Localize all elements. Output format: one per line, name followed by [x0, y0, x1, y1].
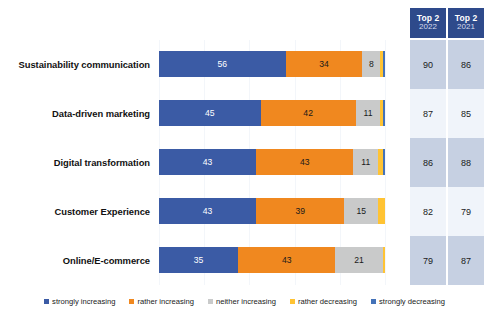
- legend-label: rather decreasing: [298, 297, 357, 306]
- chart-row: Sustainability communication563489086: [0, 40, 489, 89]
- top2-value-2022: 87: [410, 89, 446, 138]
- legend-item[interactable]: strongly increasing: [44, 297, 115, 306]
- top2-value-2022: 82: [410, 187, 446, 236]
- segment-rather-decreasing: [378, 198, 385, 224]
- segment-neither-increasing: 21: [335, 247, 382, 273]
- legend-swatch-icon: [44, 299, 49, 304]
- segment-value-label: 34: [319, 59, 329, 69]
- top2-value-2022: 86: [410, 138, 446, 187]
- segment-rather-decreasing: [383, 247, 385, 273]
- category-label: Sustainability communication: [0, 40, 150, 89]
- top2-header-year: 2021: [457, 23, 475, 31]
- category-label: Digital transformation: [0, 138, 150, 187]
- top2-value-2021: 88: [448, 138, 484, 187]
- segment-value-label: 56: [217, 59, 227, 69]
- top2-header-row: Top 22022Top 22021: [410, 8, 484, 38]
- legend-swatch-icon: [371, 299, 376, 304]
- category-label: Customer Experience: [0, 187, 150, 236]
- stacked-bar-chart: Top 22022Top 22021 Sustainability commun…: [0, 0, 489, 324]
- top2-value-2021: 87: [448, 236, 484, 285]
- segment-value-label: 15: [356, 206, 366, 216]
- segment-rather-increasing: 43: [256, 149, 353, 175]
- top2-value-2022: 90: [410, 40, 446, 89]
- segment-strongly-increasing: 43: [159, 198, 256, 224]
- plot-area: Sustainability communication563489086Dat…: [0, 40, 489, 285]
- stacked-bar: 433915: [159, 198, 385, 224]
- top2-value-cells: 7987: [410, 236, 484, 285]
- segment-strongly-decreasing: [383, 51, 385, 77]
- top2-value-cells: 8785: [410, 89, 484, 138]
- segment-strongly-increasing: 45: [159, 100, 261, 126]
- segment-value-label: 8: [369, 59, 374, 69]
- legend-swatch-icon: [290, 299, 295, 304]
- segment-rather-increasing: 43: [238, 247, 335, 273]
- segment-value-label: 43: [203, 206, 213, 216]
- segment-neither-increasing: 11: [356, 100, 381, 126]
- top2-value-2021: 79: [448, 187, 484, 236]
- top2-value-2021: 86: [448, 40, 484, 89]
- legend-item[interactable]: rather decreasing: [290, 297, 357, 306]
- segment-rather-increasing: 42: [261, 100, 356, 126]
- top2-value-cells: 8279: [410, 187, 484, 236]
- top2-value-cells: 9086: [410, 40, 484, 89]
- segment-strongly-decreasing: [383, 149, 385, 175]
- segment-strongly-increasing: 35: [159, 247, 238, 273]
- top2-header-cell-2022: Top 22022: [410, 8, 446, 38]
- top2-value-2022: 79: [410, 236, 446, 285]
- legend-swatch-icon: [129, 299, 134, 304]
- category-label: Data-driven marketing: [0, 89, 150, 138]
- legend-item[interactable]: neither increasing: [208, 297, 276, 306]
- legend-item[interactable]: strongly decreasing: [371, 297, 445, 306]
- segment-rather-increasing: 39: [256, 198, 344, 224]
- segment-neither-increasing: 15: [344, 198, 378, 224]
- segment-value-label: 11: [364, 108, 373, 118]
- chart-row: Digital transformation4343118688: [0, 138, 489, 187]
- segment-neither-increasing: 8: [362, 51, 380, 77]
- top2-header-year: 2022: [419, 23, 437, 31]
- stacked-bar: 354321: [159, 247, 385, 273]
- legend-item[interactable]: rather increasing: [129, 297, 194, 306]
- segment-strongly-increasing: 56: [159, 51, 286, 77]
- segment-value-label: 11: [361, 157, 370, 167]
- top2-value-cells: 8688: [410, 138, 484, 187]
- segment-value-label: 45: [205, 108, 215, 118]
- chart-row: Customer Experience4339158279: [0, 187, 489, 236]
- stacked-bar: 434311: [159, 149, 385, 175]
- segment-strongly-decreasing: [383, 100, 385, 126]
- top2-value-2021: 85: [448, 89, 484, 138]
- top2-header-cell-2021: Top 22021: [448, 8, 484, 38]
- segment-value-label: 39: [295, 206, 305, 216]
- segment-value-label: 21: [354, 255, 364, 265]
- segment-value-label: 43: [282, 255, 292, 265]
- legend-label: strongly decreasing: [379, 297, 445, 306]
- legend-label: strongly increasing: [52, 297, 115, 306]
- chart-row: Data-driven marketing4542118785: [0, 89, 489, 138]
- chart-legend: strongly increasingrather increasingneit…: [0, 292, 489, 310]
- legend-label: rather increasing: [137, 297, 194, 306]
- segment-neither-increasing: 11: [353, 149, 378, 175]
- stacked-bar: 56348: [159, 51, 385, 77]
- segment-value-label: 43: [300, 157, 310, 167]
- legend-swatch-icon: [208, 299, 213, 304]
- segment-value-label: 35: [194, 255, 204, 265]
- stacked-bar: 454211: [159, 100, 385, 126]
- segment-value-label: 43: [203, 157, 213, 167]
- legend-label: neither increasing: [216, 297, 276, 306]
- segment-strongly-increasing: 43: [159, 149, 256, 175]
- segment-value-label: 42: [303, 108, 313, 118]
- category-label: Online/E-commerce: [0, 236, 150, 285]
- segment-rather-increasing: 34: [286, 51, 363, 77]
- chart-row: Online/E-commerce3543217987: [0, 236, 489, 285]
